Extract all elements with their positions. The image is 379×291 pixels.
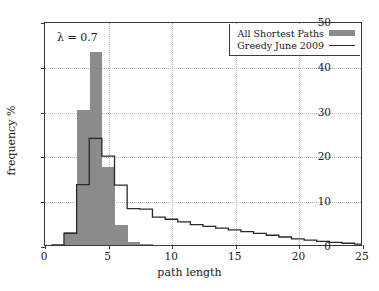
y-tick-label: 40: [318, 61, 331, 73]
greedy-line-path: [51, 138, 361, 245]
x-tick-label: 25: [355, 250, 368, 262]
x-tick-label: 15: [228, 250, 241, 262]
x-tick-mark: [299, 245, 300, 249]
legend-swatch-line-icon: [329, 45, 355, 46]
x-tick-mark: [109, 245, 110, 249]
x-tick-label: 10: [165, 250, 178, 262]
x-tick-mark: [236, 245, 237, 249]
y-tick-label: 20: [318, 150, 331, 162]
legend-item-greedy-june-2009: Greedy June 2009: [237, 39, 355, 51]
line-series-greedy-june-2009: [45, 23, 361, 245]
y-tick-label: 50: [318, 16, 331, 28]
x-tick-label: 20: [292, 250, 305, 262]
x-tick-mark: [172, 245, 173, 249]
x-tick-label: 5: [104, 250, 111, 262]
x-tick-label: 0: [41, 250, 48, 262]
legend-label-all-shortest-paths: All Shortest Paths: [238, 28, 324, 39]
y-axis-title: frequency %: [5, 86, 18, 196]
y-tick-label: 30: [318, 106, 331, 118]
legend-swatch-bar-icon: [329, 30, 355, 36]
x-tick-mark: [45, 245, 46, 249]
plot-area: λ = 0.7 All Shortest Paths Greedy June 2…: [44, 22, 362, 246]
x-axis-title: path length: [0, 266, 379, 279]
x-tick-mark: [363, 245, 364, 249]
y-tick-label: 0: [324, 240, 331, 252]
chart-legend: All Shortest Paths Greedy June 2009: [229, 24, 360, 56]
y-tick-label: 10: [318, 195, 331, 207]
legend-item-all-shortest-paths: All Shortest Paths: [237, 27, 355, 39]
lambda-annotation: λ = 0.7: [57, 31, 98, 44]
chart-figure: frequency % λ = 0.7 All Shortest Paths G…: [0, 0, 379, 291]
legend-label-greedy-june-2009: Greedy June 2009: [237, 40, 324, 51]
